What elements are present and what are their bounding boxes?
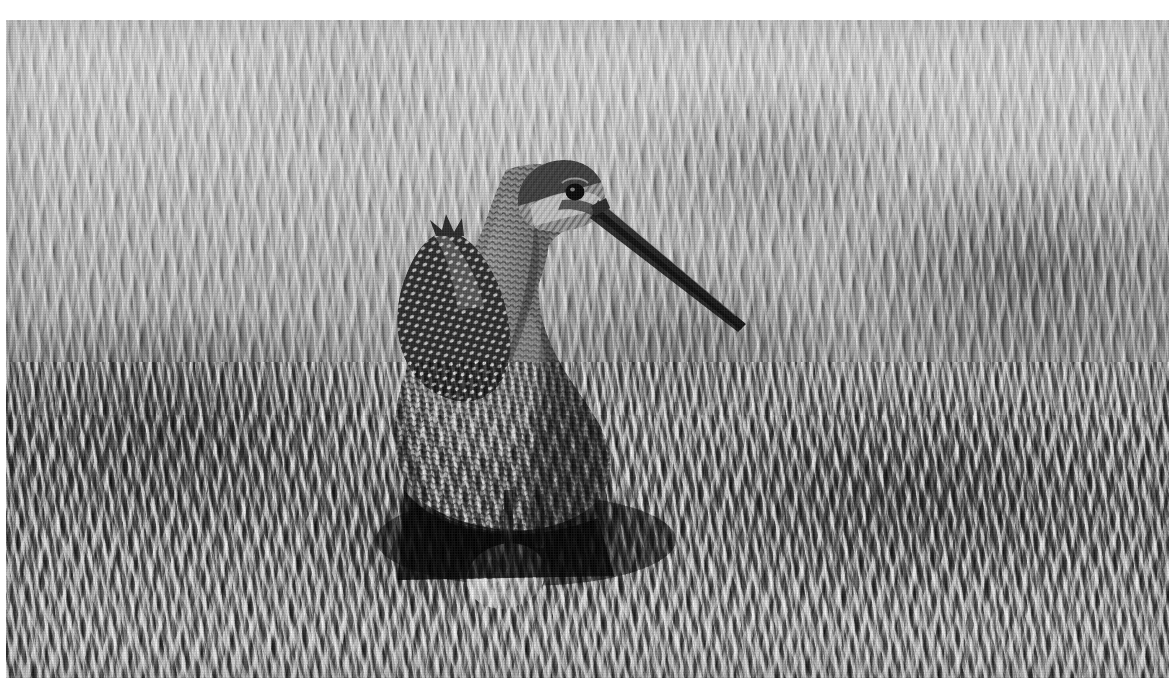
egg-label: Pale speckled egg in nest scrape [0,0,1,1]
subject-label: Long-billed shorebird (godwit / dowitche… [0,0,1,1]
background-label: Dense dry prairie grass, sunlit and out … [0,0,1,1]
photo-plate [6,20,1169,678]
image-title: Long-billed shorebird standing over nest… [0,0,1,1]
image-medium: black-and-white halftone photographic pr… [0,0,1,1]
photograph-page: Long-billed shorebird standing over nest… [0,0,1173,698]
film-grain [6,20,1169,678]
